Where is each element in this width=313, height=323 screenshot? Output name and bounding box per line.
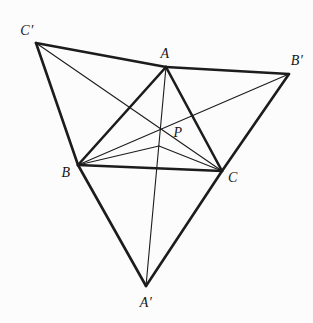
segment-A-B	[78, 67, 166, 165]
label-b-prime: B′	[291, 54, 304, 68]
label-b: B	[61, 166, 70, 180]
geometry-figure	[0, 0, 313, 323]
label-a-prime: A′	[140, 296, 153, 310]
geometry-diagram: C′ A B′ P B C A′	[0, 0, 313, 323]
segment-Cp-C	[36, 43, 222, 171]
segment-C-Ap	[146, 171, 222, 286]
segment-A-C	[166, 67, 222, 171]
segment-Cp-A	[36, 43, 166, 67]
segment-B-C	[78, 165, 222, 171]
label-p: P	[173, 126, 182, 140]
segment-A-Ap	[146, 67, 166, 286]
segment-Cp-B	[36, 43, 78, 165]
segment-A-Bp	[166, 67, 289, 74]
label-c: C	[228, 171, 238, 185]
label-a: A	[160, 47, 169, 61]
segment-B-Y	[78, 146, 159, 165]
segment-B-Ap	[78, 165, 146, 286]
label-c-prime: C′	[20, 24, 33, 38]
